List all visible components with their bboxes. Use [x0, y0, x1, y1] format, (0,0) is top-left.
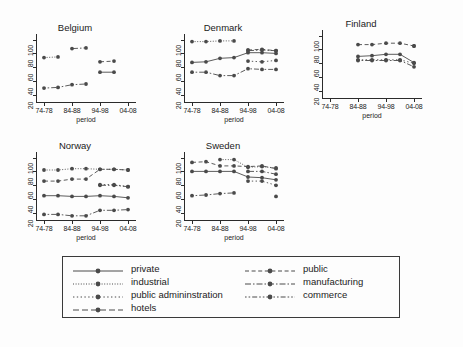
legend-item-industrial[interactable]: industrial — [71, 275, 223, 288]
panel-norway: Norway2040608010074-7884-8894-9804-08per… — [14, 140, 144, 248]
data-point — [190, 61, 194, 65]
data-point — [98, 208, 102, 212]
data-point — [204, 60, 208, 64]
data-point — [112, 167, 116, 171]
legend-item-private[interactable]: private — [71, 262, 223, 275]
x-axis-title: period — [322, 112, 422, 119]
legend-item-commerce[interactable]: commerce — [243, 288, 363, 301]
x-axis-line — [184, 220, 284, 221]
data-point — [56, 86, 60, 90]
data-point — [70, 195, 74, 199]
data-point — [112, 59, 116, 63]
x-tick — [192, 103, 193, 106]
series-layer — [36, 152, 136, 220]
y-tick-label: 100 — [27, 38, 34, 62]
x-tick — [386, 99, 387, 102]
x-tick — [330, 99, 331, 102]
x-tick-label: 04-08 — [112, 225, 144, 232]
x-tick — [248, 103, 249, 106]
legend-item-manufacturing[interactable]: manufacturing — [243, 275, 363, 288]
x-axis-line — [184, 102, 284, 103]
y-tick-label: 100 — [313, 34, 320, 58]
legend-column-right: publicmanufacturingcommerce — [243, 262, 363, 301]
legend-line-sample-icon — [71, 289, 125, 301]
data-point — [260, 68, 264, 72]
data-point — [204, 170, 208, 174]
data-point — [70, 214, 74, 218]
data-point — [126, 196, 130, 200]
data-point — [218, 39, 222, 43]
data-point — [98, 194, 102, 198]
data-point — [274, 183, 278, 187]
data-point — [70, 177, 74, 181]
legend-item-hotels[interactable]: hotels — [71, 301, 223, 314]
data-point — [126, 208, 130, 212]
x-tick-label: 04-08 — [260, 225, 292, 232]
data-point — [246, 59, 250, 63]
data-point — [274, 166, 278, 170]
data-point — [204, 193, 208, 197]
data-point — [274, 172, 278, 176]
legend-label: commerce — [303, 289, 347, 300]
data-point — [126, 168, 130, 172]
data-point — [190, 170, 194, 174]
data-point — [98, 167, 102, 171]
legend-line-sample-icon — [71, 276, 125, 288]
x-axis-line — [322, 98, 422, 99]
legend-label: industrial — [131, 276, 169, 287]
data-point — [70, 83, 74, 87]
data-point — [112, 183, 116, 187]
plot-area: 2040608010074-7884-8894-9804-08period — [184, 152, 284, 220]
legend-label: manufacturing — [303, 276, 363, 287]
x-tick — [100, 221, 101, 224]
data-point — [112, 195, 116, 199]
x-tick — [44, 221, 45, 224]
data-point — [356, 59, 360, 63]
legend-label: private — [131, 263, 160, 274]
data-point — [246, 67, 250, 71]
data-point — [398, 41, 402, 45]
data-point — [218, 56, 222, 60]
data-point — [190, 161, 194, 165]
data-point — [204, 70, 208, 74]
y-tick-label: 100 — [175, 156, 182, 180]
data-point — [260, 165, 264, 169]
x-tick — [44, 103, 45, 106]
data-point — [218, 74, 222, 78]
data-point — [384, 41, 388, 45]
y-tick-label: 100 — [27, 156, 34, 180]
data-point — [232, 74, 236, 78]
x-axis-line — [36, 220, 136, 221]
data-point — [260, 179, 264, 183]
data-point — [246, 179, 250, 183]
x-axis-title: period — [184, 116, 284, 123]
data-point — [84, 167, 88, 171]
legend-label: public admininstration — [131, 289, 223, 300]
x-tick — [220, 103, 221, 106]
data-point — [356, 43, 360, 47]
data-point — [204, 160, 208, 164]
data-point — [232, 158, 236, 162]
data-point — [232, 56, 236, 60]
data-point — [42, 213, 46, 217]
data-point — [56, 55, 60, 59]
data-point — [84, 195, 88, 199]
plot-area: 2040608010074-7884-8894-9804-08period — [184, 34, 284, 102]
data-point — [232, 39, 236, 43]
data-point — [56, 213, 60, 217]
x-tick — [248, 221, 249, 224]
data-point — [260, 48, 264, 52]
legend-item-public-admininstration[interactable]: public admininstration — [71, 288, 223, 301]
x-axis-line — [36, 102, 136, 103]
panel-title: Belgium — [14, 22, 136, 33]
data-point — [190, 194, 194, 198]
x-tick-label: 04-08 — [260, 107, 292, 114]
x-tick — [72, 103, 73, 106]
series-line-public — [100, 61, 114, 62]
plot-area: 2040608010074-7884-8894-9804-08period — [36, 34, 136, 102]
data-point — [274, 195, 278, 199]
legend-line-sample-icon — [243, 276, 297, 288]
data-point — [232, 191, 236, 195]
legend-item-public[interactable]: public — [243, 262, 363, 275]
data-point — [246, 165, 250, 169]
